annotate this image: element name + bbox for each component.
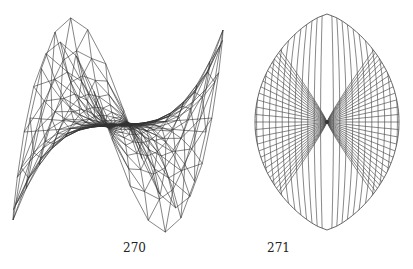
lens-grid-mesh — [245, 0, 413, 235]
figure-271-lens-grid — [245, 0, 413, 235]
figure-caption-271: 271 — [267, 241, 290, 255]
center-point — [325, 120, 329, 124]
figure-caption-270: 270 — [123, 241, 146, 255]
wireframe-lines — [13, 18, 223, 232]
saddle-surface-wireframe — [0, 0, 240, 235]
figure-270-wireframe-surface — [0, 0, 240, 235]
